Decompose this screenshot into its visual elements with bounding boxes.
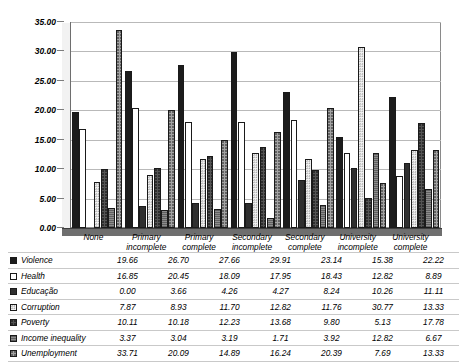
table-row: Income inequality3.373.043.191.713.9212.… [8,330,459,346]
bar-corruption-university-complete [411,150,418,228]
y-axis-tick-label: 35.00 [22,17,56,27]
bar-corruption-none [94,182,101,228]
legend-label: Poverty [21,317,49,327]
cell-poverty-primary-incomplete: 10.18 [153,315,204,331]
y-axis-tick-mark [57,50,64,51]
x-axis-label-line: Secondary [278,232,331,242]
bars-layer [71,22,441,228]
table-row: Poverty10.1110.1812.2313.689.805.1317.78 [8,315,459,331]
x-axis-label-primary-incomplete: Primaryincomplete [120,232,173,252]
x-axis-line [62,228,442,229]
bar-poverty-university-incomplete [365,198,372,228]
cell-corruption-university-complete: 13.33 [408,299,459,315]
bar-unemployment-secondary-complete [327,108,334,228]
y-axis-tick-mark [57,198,64,199]
x-axis-label-none: None [67,232,120,242]
cell-violence-secondary-complete: 23.14 [306,253,357,269]
y-axis-tick: 20.00 [18,105,56,115]
y-axis-tick-mark [57,80,64,81]
legend-swatch-health [10,273,17,280]
chart-figure: 35.0030.0025.0020.0015.0010.005.000.00 N… [0,0,467,364]
legend-swatch-violence [10,257,17,264]
bar-health-university-complete [396,176,403,228]
bar-income-inequality-secondary-complete [320,205,327,228]
table-body: Violence19.6626.7027.6629.9123.1415.3822… [8,253,459,362]
x-axis-label-line: University [384,232,437,242]
x-axis-label-line: complete [384,242,437,252]
table-row: Health16.8520.4518.0917.9518.4312.828.89 [8,268,459,284]
cell-health-secondary-complete: 18.43 [306,268,357,284]
bar-unemployment-primary-incomplete [168,110,175,228]
y-axis-tick: 10.00 [18,164,56,174]
y-axis-tick: 5.00 [18,194,56,204]
cell-health-university-complete: 8.89 [408,268,459,284]
bar-corruption-university-incomplete [358,47,365,228]
cell-unemployment-secondary-complete: 20.39 [306,346,357,362]
bar-unemployment-none [116,30,123,228]
bar-poverty-secondary-incomplete [260,147,267,228]
legend-entry-corruption: Corruption [8,299,102,315]
plot-region: 35.0030.0025.0020.0015.0010.005.000.00 N… [0,0,467,248]
bar-group-secondary-complete [283,22,334,228]
y-axis-tick-label: 30.00 [22,46,56,56]
y-axis-tick-label: 10.00 [22,164,56,174]
bar-violence-primary-incomplete [125,71,132,228]
bar-violence-secondary-incomplete [231,52,238,228]
bar-poverty-university-complete [418,123,425,228]
bar-violence-secondary-complete [283,92,290,228]
legend-swatch-unemployment [10,350,17,357]
cell-income-inequality-none: 3.37 [102,330,153,346]
table-row: Unemployment33.7120.0914.8916.2420.397.6… [8,346,459,362]
y-axis-tick: 25.00 [18,76,56,86]
x-axis-label-line: complete [278,242,331,252]
bar-poverty-none [101,169,108,229]
legend-label: Income inequality [21,333,86,343]
cell-violence-university-complete: 22.22 [408,253,459,269]
cell-corruption-secondary-incomplete: 12.82 [255,299,306,315]
bar-violence-primary-complete [178,65,185,228]
cell-corruption-primary-incomplete: 8.93 [153,299,204,315]
bar-income-inequality-university-complete [425,189,432,228]
cell-income-inequality-primary-incomplete: 3.04 [153,330,204,346]
legend-label: Educação [21,286,58,296]
cell-income-inequality-university-complete: 6.67 [408,330,459,346]
data-table: Violence19.6626.7027.6629.9123.1415.3822… [8,252,459,362]
x-axis-label-line: University [331,232,384,242]
bar-income-inequality-university-incomplete [373,153,380,228]
x-axis-label-line: Secondary [226,232,279,242]
legend-swatch-income-inequality [10,335,17,342]
bar-income-inequality-primary-incomplete [161,210,168,228]
chart-data-table: Violence19.6626.7027.6629.9123.1415.3822… [8,252,459,362]
bar-unemployment-university-incomplete [380,183,387,228]
y-axis-tick-label: 25.00 [22,76,56,86]
cell-corruption-none: 7.87 [102,299,153,315]
cell-income-inequality-secondary-complete: 3.92 [306,330,357,346]
bar-corruption-primary-complete [200,159,207,228]
bar-unemployment-primary-complete [221,140,228,228]
legend-label: Corruption [21,302,60,312]
y-axis-tick: 35.00 [18,17,56,27]
bar-income-inequality-none [108,208,115,228]
bar-corruption-secondary-incomplete [252,153,259,228]
legend-entry-educacao: Educação [8,284,102,300]
cell-violence-secondary-incomplete: 29.91 [255,253,306,269]
legend-label: Violence [21,255,53,265]
legend-swatch-poverty [10,319,17,326]
y-axis-tick-mark [57,139,64,140]
bar-income-inequality-secondary-incomplete [267,218,274,228]
bar-health-primary-incomplete [132,108,139,228]
y-axis-tick-label: 0.00 [22,223,56,233]
bar-group-university-complete [389,22,440,228]
cell-poverty-university-incomplete: 5.13 [357,315,408,331]
bar-group-primary-incomplete [125,22,176,228]
bar-educacao-primary-complete [192,203,199,228]
cell-violence-primary-complete: 27.66 [204,253,255,269]
bar-group-primary-complete [178,22,229,228]
cell-poverty-university-complete: 17.78 [408,315,459,331]
cell-poverty-none: 10.11 [102,315,153,331]
bar-health-primary-complete [185,122,192,228]
cell-violence-none: 19.66 [102,253,153,269]
bar-violence-none [72,112,79,228]
table-row: Violence19.6626.7027.6629.9123.1415.3822… [8,253,459,269]
bar-violence-university-incomplete [336,137,343,228]
